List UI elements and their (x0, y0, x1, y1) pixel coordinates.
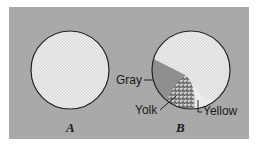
label-gray: Gray (116, 73, 153, 87)
circle-a (31, 31, 109, 109)
caption-a: A (65, 120, 75, 135)
svg-text:Yellow: Yellow (203, 104, 238, 118)
circle-b (150, 25, 240, 112)
svg-text:Yolk: Yolk (135, 103, 158, 117)
egg-diagram: Gray Yolk Yellow A B (0, 0, 261, 144)
svg-text:Gray: Gray (116, 73, 142, 87)
caption-b: B (175, 120, 185, 135)
